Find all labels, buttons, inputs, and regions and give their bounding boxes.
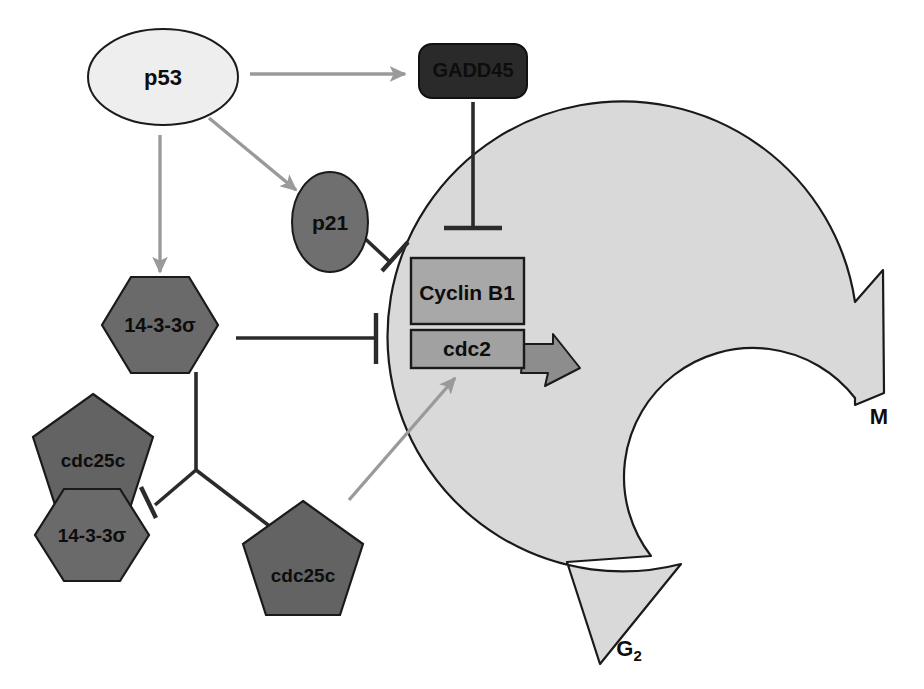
node-gadd45-label: GADD45 [432,59,513,81]
sigma-y-junction [141,372,272,528]
inhibition-tbar [141,487,156,518]
node-p21[interactable]: p21 [292,172,368,272]
pathway-diagram: G2 M [0,0,924,689]
cycle-arrow-body [388,101,884,664]
cell-cycle-arrow [388,101,884,664]
node-14-3-3-sigma-free-label: 14-3-3σ [124,314,196,336]
node-gadd45[interactable]: GADD45 [419,44,527,98]
pathway-canvas: G2 M [0,0,924,689]
node-cdc25c-free-label: cdc25c [271,565,336,586]
node-cdc25c-bound-label: cdc25c [61,450,126,471]
phase-label-g2: G2 [616,636,641,664]
node-cyclin-b1[interactable]: Cyclin B1 [411,258,524,324]
node-p21-label: p21 [312,211,349,234]
node-p53[interactable]: p53 [88,29,238,125]
phase-label-m: M [870,404,888,429]
node-14-3-3-sigma-free[interactable]: 14-3-3σ [102,277,218,373]
node-cyclin-b1-label: Cyclin B1 [419,281,515,304]
inhibition-shaft [155,470,196,505]
inhibition-14-3-3-sigma-to-cyclin-b1 [236,313,376,364]
arrow-shaft [209,118,296,190]
activation-arrow-p53-to-p21 [209,118,296,190]
inhibition-14-3-3-sigma-to-cdc25c-complex [141,470,196,518]
sequestration-line-to-cdc25c [196,470,272,528]
node-cdc2-label: cdc2 [443,337,491,360]
node-p53-label: p53 [144,65,182,90]
node-14-3-3-sigma-bound-label: 14-3-3σ [58,524,127,546]
node-cdc2[interactable]: cdc2 [411,330,524,368]
